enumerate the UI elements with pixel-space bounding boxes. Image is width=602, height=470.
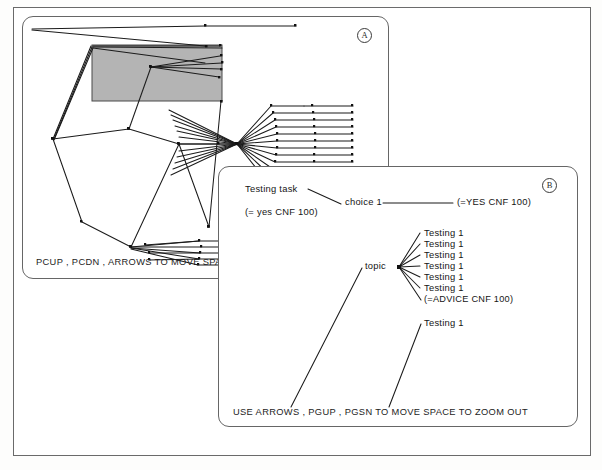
- node-label-testing-1-g[interactable]: Testing 1: [424, 317, 464, 328]
- node-label-testing-1-d[interactable]: Testing 1: [424, 260, 464, 271]
- figure-canvas: A PCUP , PCDN , ARROWS TO MOVE SPAC: [0, 0, 602, 470]
- node-label-yes-cnf-100[interactable]: (=YES CNF 100): [457, 196, 531, 207]
- terminal-window-b[interactable]: B Testing task (= yes CNF 100) choice 1 …: [218, 166, 578, 427]
- node-label-yes-cnf[interactable]: (= yes CNF 100): [245, 206, 318, 217]
- panel-b-identifier-badge: B: [542, 178, 557, 193]
- node-label-topic[interactable]: topic: [365, 260, 386, 271]
- node-label-testing-1-a[interactable]: Testing 1: [424, 227, 464, 238]
- panel-b-nodes: [397, 265, 401, 269]
- node-label-choice-1[interactable]: choice 1: [345, 196, 382, 207]
- highlight-region: [92, 45, 222, 101]
- panel-a-identifier-badge: A: [357, 28, 372, 43]
- panel-b-status-line: USE ARROWS , PGUP , PGSN TO MOVE SPACE T…: [233, 407, 528, 417]
- panel-a-status-line: PCUP , PCDN , ARROWS TO MOVE SPAC: [36, 257, 229, 267]
- node-label-advice-cnf[interactable]: (=ADVICE CNF 100): [424, 294, 513, 304]
- node-label-testing-1-e[interactable]: Testing 1: [424, 271, 464, 282]
- node-label-testing-1-f[interactable]: Testing 1: [424, 282, 464, 293]
- node-label-testing-task[interactable]: Testing task: [245, 183, 298, 194]
- node-label-testing-1-c[interactable]: Testing 1: [424, 249, 464, 260]
- node-label-testing-1-b[interactable]: Testing 1: [424, 238, 464, 249]
